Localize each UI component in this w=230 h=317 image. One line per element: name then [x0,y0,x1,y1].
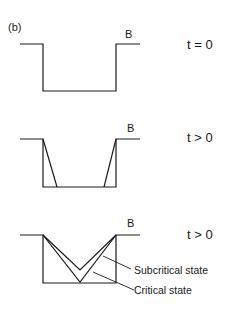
critical-leader-line [93,272,134,290]
point-b-label-panel1: B [125,29,132,40]
time-label-panel3: t > 0 [187,228,213,241]
time-label-panel1: t = 0 [187,38,213,51]
trench-outline-panel3 [20,235,140,283]
trench-profile-t0 [20,44,140,91]
time-label-panel2: t > 0 [187,131,213,144]
left-slope-panel2 [43,139,57,187]
critical-state-label: Critical state [134,285,192,296]
point-b-label-panel2: B [127,123,134,134]
subcritical-state-profile [43,235,116,270]
critical-state-profile [43,235,116,282]
figure-label: (b) [8,22,21,33]
right-slope-panel2 [104,139,116,187]
subcritical-state-label: Subcritical state [134,265,208,276]
trench-outline-panel2 [20,139,140,187]
point-b-label-panel3: B [127,218,134,229]
subcritical-leader-line [103,256,131,269]
